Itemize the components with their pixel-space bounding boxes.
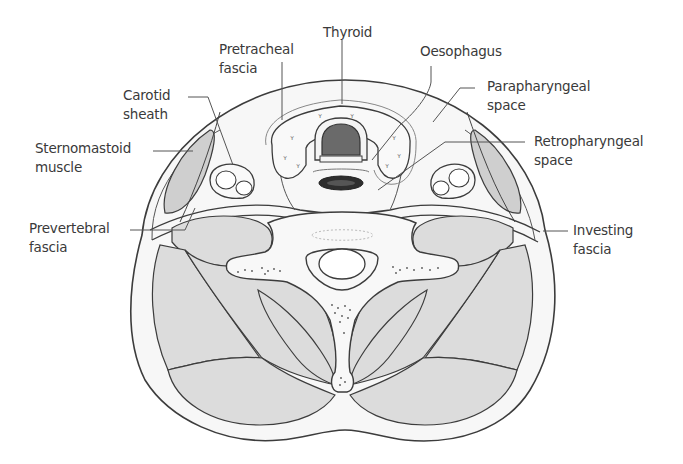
- label-retropharyngeal-space-line1: Retropharyngeal: [534, 132, 643, 151]
- trachea: [315, 118, 367, 162]
- carotid-sheath-left: [210, 164, 254, 198]
- svg-text:ʏ: ʏ: [296, 162, 300, 170]
- label-pretracheal-fascia-line1: Pretracheal: [219, 40, 294, 59]
- label-sternomastoid-muscle: Sternomastoid muscle: [35, 139, 131, 177]
- label-thyroid-text: Thyroid: [323, 23, 372, 42]
- label-oesophagus: Oesophagus: [420, 42, 502, 61]
- label-retropharyngeal-space-line2: space: [534, 151, 643, 170]
- label-carotid-sheath: Carotid sheath: [123, 86, 170, 124]
- label-prevertebral-fascia-line2: fascia: [29, 238, 110, 257]
- label-prevertebral-fascia-line1: Prevertebral: [29, 219, 110, 238]
- label-carotid-sheath-line2: sheath: [123, 105, 170, 124]
- label-investing-fascia-line1: Investing: [573, 221, 633, 240]
- label-pretracheal-fascia: Pretracheal fascia: [219, 40, 294, 78]
- label-parapharyngeal-space-line1: Parapharyngeal: [487, 77, 590, 96]
- label-parapharyngeal-space: Parapharyngeal space: [487, 77, 590, 115]
- svg-text:ʏ: ʏ: [392, 134, 396, 142]
- label-thyroid: Thyroid: [323, 23, 372, 42]
- label-oesophagus-text: Oesophagus: [420, 42, 502, 61]
- label-sternomastoid-muscle-line2: muscle: [35, 158, 131, 177]
- label-carotid-sheath-line1: Carotid: [123, 86, 170, 105]
- label-parapharyngeal-space-line2: space: [487, 96, 590, 115]
- label-investing-fascia: Investing fascia: [573, 221, 633, 259]
- label-prevertebral-fascia: Prevertebral fascia: [29, 219, 110, 257]
- label-retropharyngeal-space: Retropharyngeal space: [534, 132, 643, 170]
- svg-text:ʏ: ʏ: [318, 112, 322, 120]
- svg-text:ʏ: ʏ: [283, 154, 287, 162]
- carotid-sheath-right: [431, 164, 475, 198]
- svg-text:ʏ: ʏ: [385, 162, 389, 170]
- label-sternomastoid-muscle-line1: Sternomastoid: [35, 139, 131, 158]
- svg-text:ʏ: ʏ: [290, 134, 294, 142]
- svg-text:ʏ: ʏ: [397, 152, 401, 160]
- label-pretracheal-fascia-line2: fascia: [219, 59, 294, 78]
- neck-cross-section-diagram: ʏʏʏ ʏʏʏ ʏʏ: [0, 0, 683, 464]
- label-investing-fascia-line2: fascia: [573, 240, 633, 259]
